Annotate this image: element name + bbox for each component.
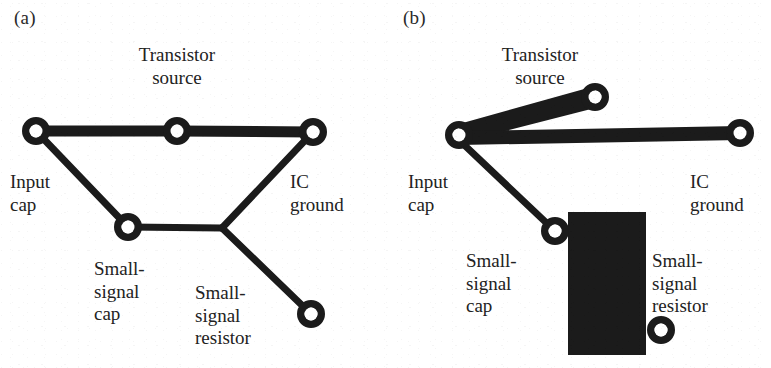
- label-panel-b-input-cap: Inputcap: [408, 171, 448, 216]
- panel-label-b: (b): [403, 8, 426, 28]
- figure-canvas: (a)TransistorsourceInputcapICgroundSmall…: [0, 0, 771, 368]
- label-line: Small-: [195, 282, 251, 305]
- label-panel-b-small-signal-resistor: Small-signalresistor: [652, 250, 708, 318]
- label-panel-a-small-signal-resistor: Small-signalresistor: [195, 282, 251, 350]
- label-panel-a-transistor-source: Transistorsource: [139, 44, 215, 89]
- label-line: signal: [466, 273, 517, 296]
- label-line: signal: [94, 281, 145, 304]
- node-hole-small-signal-cap: [549, 225, 562, 238]
- node-hole-small-signal-resistor: [305, 308, 318, 321]
- node-small-signal-cap[interactable]: [118, 217, 139, 238]
- node-input-cap[interactable]: [449, 125, 470, 146]
- node-hole-transistor-source: [589, 91, 602, 104]
- node-hole-transistor-source: [171, 125, 184, 138]
- label-line: Small-: [466, 250, 517, 273]
- label-line: cap: [466, 295, 517, 318]
- branch-transistor-source-to-ic-ground: [177, 131, 313, 132]
- node-ic-ground[interactable]: [730, 123, 751, 144]
- node-transistor-source[interactable]: [585, 87, 606, 108]
- label-panel-a-small-signal-cap: Small-signalcap: [94, 258, 145, 326]
- label-line: source: [139, 67, 215, 90]
- label-line: Transistor: [139, 44, 215, 67]
- label-line: source: [502, 67, 578, 90]
- label-line: ground: [690, 194, 744, 217]
- node-small-signal-cap[interactable]: [545, 221, 566, 242]
- node-ic-ground[interactable]: [303, 122, 324, 143]
- branch-small-signal-cap-to-junction: [128, 227, 222, 228]
- node-hole-ic-ground: [734, 127, 747, 140]
- label-panel-b-small-signal-cap: Small-signalcap: [466, 250, 517, 318]
- label-line: signal: [652, 273, 708, 296]
- label-line: IC: [690, 171, 744, 194]
- label-line: cap: [408, 194, 448, 217]
- label-line: Input: [408, 171, 448, 194]
- plate-small-signal-cap-to-resistor-plane: [568, 212, 646, 355]
- label-panel-a-ic-ground: ICground: [290, 171, 344, 216]
- label-line: cap: [10, 194, 50, 217]
- label-line: cap: [94, 303, 145, 326]
- label-line: ground: [290, 194, 344, 217]
- label-line: resistor: [652, 295, 708, 318]
- label-line: Small-: [652, 250, 708, 273]
- node-small-signal-resistor[interactable]: [651, 320, 672, 341]
- panel-label-a: (a): [14, 8, 36, 28]
- label-line: Input: [10, 171, 50, 194]
- node-hole-input-cap: [30, 125, 43, 138]
- label-panel-b-transistor-source: Transistorsource: [502, 44, 578, 89]
- node-hole-small-signal-resistor: [655, 324, 668, 337]
- node-input-cap[interactable]: [26, 121, 47, 142]
- branch-input-cap-to-small-signal-cap: [459, 140, 555, 231]
- label-panel-b-ic-ground: ICground: [690, 171, 744, 216]
- label-line: IC: [290, 171, 344, 194]
- label-panel-a-input-cap: Inputcap: [10, 171, 50, 216]
- label-line: Small-: [94, 258, 145, 281]
- node-small-signal-resistor[interactable]: [301, 304, 322, 325]
- label-line: signal: [195, 305, 251, 328]
- node-hole-ic-ground: [307, 126, 320, 139]
- label-line: resistor: [195, 327, 251, 350]
- node-hole-small-signal-cap: [122, 221, 135, 234]
- branch-input-cap-to-ic-ground: [459, 133, 740, 138]
- panel-a-artwork: [26, 121, 324, 325]
- label-line: Transistor: [502, 44, 578, 67]
- node-hole-input-cap: [453, 129, 466, 142]
- node-transistor-source[interactable]: [167, 121, 188, 142]
